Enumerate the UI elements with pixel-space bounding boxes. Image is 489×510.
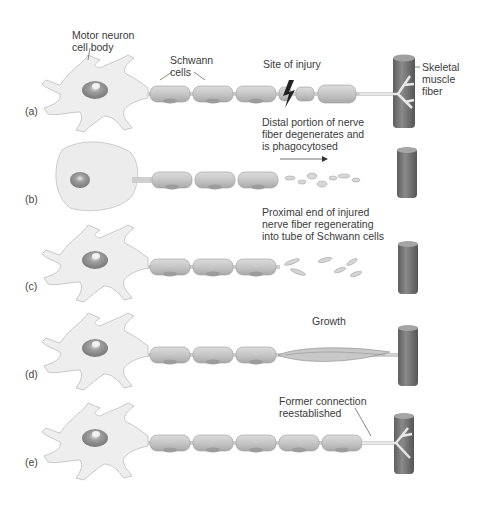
label-growth: Growth	[312, 315, 346, 327]
panel-label-c: (c)	[25, 280, 37, 292]
panel-d	[42, 313, 418, 390]
arrow-right-icon	[322, 156, 328, 162]
diagram-canvas	[0, 0, 489, 510]
degenerating-fragments	[285, 173, 360, 187]
label-skeletal-muscle: Skeletal muscle fiber	[422, 61, 459, 97]
motor-neuron-cell-body	[42, 55, 148, 132]
label-site-of-injury: Site of injury	[263, 58, 321, 70]
label-proximal-end: Proximal end of injured nerve fiber rege…	[262, 206, 384, 242]
regenerating-sprouts	[284, 256, 363, 278]
label-schwann-cells: Schwann cells	[170, 54, 213, 78]
panel-label-e: (e)	[25, 456, 38, 468]
skeletal-muscle-fiber	[393, 56, 415, 128]
panel-label-b: (b)	[25, 193, 38, 205]
regrowth-bundle	[278, 348, 390, 362]
label-distal-portion: Distal portion of nerve fiber degenerate…	[262, 116, 364, 152]
swollen-cell-body	[56, 142, 138, 211]
label-motor-neuron: Motor neuron cell body	[72, 29, 134, 53]
panel-label-d: (d)	[25, 368, 38, 380]
panel-b	[56, 142, 417, 211]
panel-label-a: (a)	[25, 105, 38, 117]
label-former-connection: Former connection reestablished	[279, 395, 367, 419]
